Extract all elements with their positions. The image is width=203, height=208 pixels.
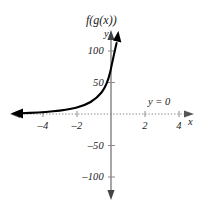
x-tick-label--4: –4 <box>33 121 53 132</box>
x-axis-label: x <box>188 117 193 128</box>
y-tick-label-100: 100 <box>80 46 104 57</box>
curve-left-arrow <box>11 108 23 118</box>
y-axis-label: y <box>104 29 109 40</box>
chart-title: f(g(x)) <box>86 14 117 26</box>
y-tick-label-50: 50 <box>80 78 104 89</box>
y-tick-label--50: –50 <box>78 141 104 152</box>
exponential-function-graph: f(g(x)) y x y = 0 100 50 –50 –100 –4 –2 … <box>0 0 203 208</box>
x-tick-label-4: 4 <box>171 121 187 132</box>
asymptote-annotation: y = 0 <box>148 97 170 108</box>
y-tick-label--100: –100 <box>74 172 104 183</box>
x-tick-label-2: 2 <box>137 121 153 132</box>
x-tick-label--2: –2 <box>67 121 87 132</box>
curve-up-arrow <box>113 31 121 43</box>
y-axis-down-arrow <box>107 190 114 200</box>
